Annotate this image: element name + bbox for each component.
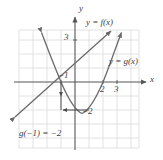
x-tick-label-2: 2 (100, 85, 105, 94)
y-tick-label-neg2: −2 (82, 107, 93, 116)
x-tick-label-neg1: −1 (58, 71, 69, 80)
function-graph-figure: y x y = f(x) y = g(x) 3 2 3 −1 −2 g(−1) … (0, 0, 163, 160)
y-tick-label-3: 3 (64, 33, 69, 42)
curve-label-g: y = g(x) (109, 57, 138, 66)
annotation-text: g(−1) = −2 (19, 129, 61, 138)
y-axis-label: y (79, 4, 83, 13)
x-axis-label: x (150, 75, 154, 84)
x-tick-label-3: 3 (114, 85, 119, 94)
curve-label-f: y = f(x) (86, 18, 113, 27)
parabola-g-of-x (42, 33, 122, 114)
